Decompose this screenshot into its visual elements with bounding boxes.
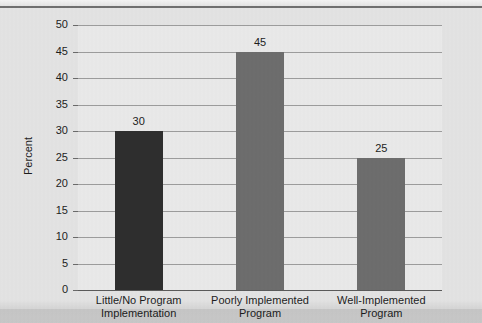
bar-value-label: 25 [346, 143, 416, 154]
y-tick-label: 45 [0, 46, 68, 57]
bar-value-label: 30 [104, 116, 174, 127]
y-tick-label: 5 [0, 258, 68, 269]
y-tick-label: 30 [0, 125, 68, 136]
y-tick-mark [73, 290, 78, 291]
bar [236, 52, 284, 291]
y-tick-label: 50 [0, 19, 68, 30]
y-tick-label: 10 [0, 231, 68, 242]
y-tick-label: 35 [0, 99, 68, 110]
plot-area [78, 25, 442, 290]
bar [115, 131, 163, 290]
x-category-label-line: Well-Implemented [306, 294, 456, 307]
y-tick-label: 15 [0, 205, 68, 216]
top-rule-divider [0, 6, 482, 8]
gridline [78, 25, 442, 26]
x-category-label-line: Program [306, 307, 456, 320]
chart-figure: Percent 50454035302520151050 304525 Litt… [0, 0, 482, 323]
y-tick-label: 20 [0, 178, 68, 189]
x-axis-line [78, 290, 442, 291]
bar [357, 158, 405, 291]
x-category-label: Well-ImplementedProgram [306, 294, 456, 320]
y-tick-label: 40 [0, 72, 68, 83]
y-tick-label: 0 [0, 284, 68, 295]
y-tick-label: 25 [0, 152, 68, 163]
bar-value-label: 45 [225, 37, 295, 48]
